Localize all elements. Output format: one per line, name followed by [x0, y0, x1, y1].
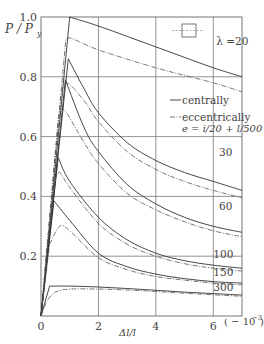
curve-lambda-20-eccentric: [41, 38, 242, 316]
y-axis-label: P / P y: [4, 22, 42, 38]
x-tick-label: 4: [152, 320, 159, 333]
y-axis-label-main: P / P: [4, 22, 34, 36]
curve-label: 60: [219, 200, 232, 212]
chart: 0.20.40.60.81.0 0246 λ =203060100150300 …: [0, 0, 264, 344]
curve-lambda-60-eccentric: [41, 109, 242, 316]
curve-label: 300: [213, 281, 233, 293]
curve-label: 100: [213, 248, 233, 260]
curve-label: λ =20: [216, 35, 248, 47]
square-cross-section-icon: [172, 24, 204, 37]
curve-lambda-100-eccentric: [41, 172, 242, 316]
legend-eccentrically: eccentrically: [182, 111, 250, 123]
y-tick-label: 0.4: [20, 190, 38, 203]
curve-label: 150: [213, 266, 233, 278]
y-tick-label: 0.8: [20, 71, 38, 84]
x-axis-label-text: Δl/l: [118, 327, 136, 338]
x-tick-label: 2: [95, 320, 102, 333]
x-axis-unit: ( − 10: [224, 316, 255, 327]
y-tick-label: 0.6: [20, 131, 38, 144]
legend-eccentricity-formula: e = i/20 + l/500: [182, 123, 263, 134]
curve-lambda-300-eccentric: [41, 289, 242, 316]
legend-centrally: centrally: [182, 94, 229, 106]
x-axis-unit-close: ): [260, 316, 264, 327]
curve-labels: λ =203060100150300: [213, 35, 248, 292]
y-tick-label: 0.2: [20, 250, 38, 263]
x-tick-label: 6: [210, 320, 217, 333]
y-axis-label-sub: y: [36, 29, 42, 38]
curve-label: 30: [219, 146, 232, 158]
curve-lambda-150-central: [41, 201, 242, 316]
y-tick-labels: 0.20.40.60.81.0: [20, 11, 38, 263]
x-tick-label: 0: [38, 320, 45, 333]
series: [41, 17, 242, 316]
x-axis-label: Δl/l ( − 10 −3 ): [118, 314, 264, 338]
